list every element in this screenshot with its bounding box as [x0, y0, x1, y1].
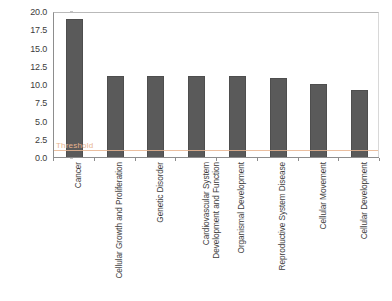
bar — [188, 76, 205, 158]
bar — [351, 90, 368, 158]
bar-chart: -log(p-value) 20.017.515.012.510.07.55.0… — [0, 0, 392, 301]
x-tick-mark — [135, 158, 136, 161]
y-axis-ticks: 20.017.515.012.510.07.55.02.50.0 — [20, 12, 50, 158]
x-tick-mark — [338, 158, 339, 161]
y-tick-label: 2.5 — [35, 135, 47, 145]
bar — [229, 76, 246, 158]
x-axis-category-label-line: Cellular Growth and Proliferation — [114, 162, 124, 297]
x-axis-category-label: Cellular Movement — [318, 162, 328, 297]
x-axis-category-label-line: Cellular Movement — [318, 162, 328, 297]
x-axis-category-label: Cardiovascular SystemDevelopment and Fun… — [201, 162, 221, 297]
plot-inner: Threshold — [54, 13, 378, 158]
x-axis-category-label: Cellular Growth and Proliferation — [114, 162, 124, 297]
y-axis-title-container: -log(p-value) — [2, 12, 18, 157]
bar — [147, 76, 164, 158]
x-tick-mark — [53, 158, 54, 161]
x-axis-category-label-line: Cellular Development — [359, 162, 369, 297]
x-tick-mark — [216, 158, 217, 161]
x-axis-category-label: Reproductive System Disease — [277, 162, 287, 297]
x-tick-mark — [379, 158, 380, 161]
bar — [66, 19, 83, 158]
x-tick-mark — [257, 158, 258, 161]
y-tick-label: 12.5 — [30, 62, 47, 72]
y-tick-label: 0.0 — [35, 153, 47, 163]
plot-area: Threshold — [53, 12, 379, 158]
x-axis-category-label-line: Reproductive System Disease — [277, 162, 287, 297]
bar — [107, 76, 124, 158]
bar — [310, 84, 327, 158]
x-tick-mark — [298, 158, 299, 161]
x-axis-category-label-line: Genetic Disorder — [155, 162, 165, 297]
x-tick-mark — [94, 158, 95, 161]
x-axis-category-label: Organismal Development — [236, 162, 246, 297]
x-axis-category-label-line: Organismal Development — [236, 162, 246, 297]
y-tick-label: 15.0 — [30, 44, 47, 54]
y-tick-label: 17.5 — [30, 25, 47, 35]
bar — [270, 78, 287, 158]
y-tick-label: 7.5 — [35, 98, 47, 108]
x-tick-mark — [175, 158, 176, 161]
x-axis-category-label-line: Cancer — [73, 162, 83, 297]
y-tick-label: 10.0 — [30, 80, 47, 90]
threshold-label: Threshold — [56, 141, 93, 150]
threshold-line — [54, 150, 378, 151]
x-axis-category-label: Genetic Disorder — [155, 162, 165, 297]
x-axis-category-label: Cellular Development — [359, 162, 369, 297]
y-tick-label: 5.0 — [35, 117, 47, 127]
y-tick-label: 20.0 — [30, 7, 47, 17]
x-axis-labels: CancerCellular Growth and ProliferationG… — [53, 162, 379, 300]
x-axis-category-label: Cancer — [73, 162, 83, 297]
x-axis-category-label-line: Development and Function — [211, 162, 221, 297]
x-axis-category-label-line: Cardiovascular System — [201, 162, 211, 297]
